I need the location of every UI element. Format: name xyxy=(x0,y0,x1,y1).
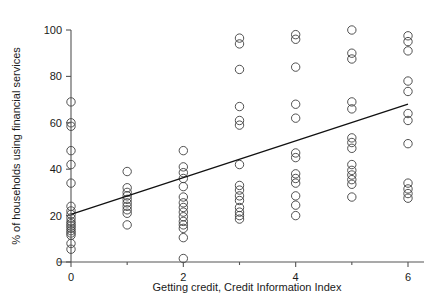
data-point xyxy=(291,201,299,209)
data-point xyxy=(235,102,243,110)
data-point xyxy=(291,63,299,71)
data-point xyxy=(179,146,187,154)
y-tick-label: 40 xyxy=(50,163,62,175)
data-point xyxy=(404,77,412,85)
y-tick-label: 0 xyxy=(56,256,62,268)
data-point xyxy=(291,100,299,108)
y-tick-label: 80 xyxy=(50,70,62,82)
y-tick-label: 60 xyxy=(50,117,62,129)
data-point xyxy=(404,139,412,147)
data-point xyxy=(348,55,356,63)
data-point xyxy=(348,193,356,201)
data-point xyxy=(404,37,412,45)
data-point xyxy=(404,47,412,55)
y-axis-title: % of households using financial services xyxy=(10,47,22,245)
scatter-plot-figure: 020406080100 0246 Getting credit, Credit… xyxy=(0,0,431,306)
y-tick-label: 100 xyxy=(44,24,62,36)
x-tick-label: 6 xyxy=(405,271,411,283)
data-point xyxy=(291,192,299,200)
data-point xyxy=(291,211,299,219)
data-point xyxy=(123,167,131,175)
data-point-markers xyxy=(67,26,412,263)
data-point xyxy=(291,114,299,122)
data-point xyxy=(179,182,187,190)
data-point xyxy=(235,40,243,48)
data-point xyxy=(235,65,243,73)
y-tick-label: 20 xyxy=(50,210,62,222)
data-point xyxy=(348,26,356,34)
data-point xyxy=(235,160,243,168)
data-point xyxy=(404,87,412,95)
data-point xyxy=(123,221,131,229)
data-point xyxy=(179,233,187,241)
x-axis xyxy=(58,262,424,267)
data-point xyxy=(348,144,356,152)
x-axis-title: Getting credit, Credit Information Index xyxy=(153,281,342,293)
x-tick-label: 0 xyxy=(68,271,74,283)
y-tick-labels: 020406080100 xyxy=(44,24,62,268)
plot-canvas: 020406080100 0246 Getting credit, Credit… xyxy=(0,0,431,306)
